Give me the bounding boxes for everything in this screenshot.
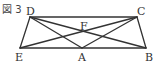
point-label-E: E	[15, 52, 23, 63]
point-label-A: A	[78, 52, 86, 63]
point-label-C: C	[137, 6, 145, 17]
segment-DE	[20, 17, 30, 48]
geometry-figure: 図 3 D C F E A B	[0, 0, 157, 67]
point-label-D: D	[26, 6, 35, 17]
point-label-F: F	[80, 21, 88, 32]
segment-CB	[137, 17, 146, 48]
point-label-B: B	[145, 52, 153, 63]
